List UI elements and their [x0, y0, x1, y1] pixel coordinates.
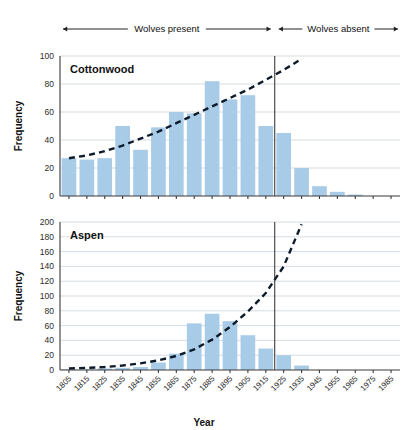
bar-cottonwood-1945: [312, 186, 327, 196]
y-tick-label-cottonwood-20: 20: [45, 163, 55, 173]
bar-aspen-1855: [151, 363, 166, 370]
y-axis-title-aspen: Frequency: [13, 270, 24, 321]
y-tick-label-aspen-160: 160: [40, 247, 54, 257]
panel-title-aspen: Aspen: [70, 229, 104, 241]
bar-cottonwood-1845: [133, 150, 148, 196]
bar-cottonwood-1855: [151, 127, 166, 196]
x-tick-label-1895: 1895: [215, 374, 234, 393]
bar-cottonwood-1875: [187, 113, 202, 196]
x-tick-label-1815: 1815: [72, 374, 91, 393]
y-tick-label-aspen-60: 60: [45, 321, 55, 331]
bar-cottonwood-1895: [223, 99, 238, 196]
bar-cottonwood-1805: [62, 158, 77, 196]
panel-title-cottonwood: Cottonwood: [70, 63, 134, 75]
x-tick-label-1965: 1965: [341, 374, 360, 393]
wolves-absent-label: Wolves absent: [307, 23, 369, 34]
bar-cottonwood-1935: [294, 168, 309, 196]
wolves-present-arrowhead-left: [63, 26, 67, 31]
x-tick-label-1865: 1865: [162, 374, 181, 393]
y-tick-label-aspen-200: 200: [40, 217, 54, 227]
x-tick-label-1845: 1845: [126, 374, 145, 393]
wolves-absent-arrowhead-left: [279, 26, 283, 31]
bar-cottonwood-1815: [80, 160, 95, 196]
y-tick-label-cottonwood-0: 0: [49, 191, 54, 201]
y-tick-label-aspen-140: 140: [40, 261, 54, 271]
bar-aspen-1925: [276, 355, 291, 370]
panel-cottonwood: 020406080100CottonwoodFrequency: [13, 51, 400, 201]
bar-aspen-1885: [205, 314, 220, 370]
x-tick-label-1955: 1955: [323, 374, 342, 393]
y-tick-label-aspen-0: 0: [49, 365, 54, 375]
x-tick-label-1825: 1825: [90, 374, 109, 393]
bar-aspen-1915: [258, 349, 273, 370]
x-tick-label-1945: 1945: [305, 374, 324, 393]
x-tick-label-1805: 1805: [54, 374, 73, 393]
x-tick-label-1975: 1975: [359, 374, 378, 393]
bar-aspen-1905: [241, 335, 256, 370]
x-tick-label-1935: 1935: [287, 374, 306, 393]
y-tick-label-cottonwood-100: 100: [40, 51, 54, 61]
two-panel-bar-chart: Wolves presentWolves absent 020406080100…: [0, 0, 408, 430]
y-tick-label-aspen-120: 120: [40, 276, 54, 286]
figure-container: Wolves presentWolves absent 020406080100…: [0, 0, 408, 430]
y-tick-label-cottonwood-80: 80: [45, 79, 55, 89]
bar-cottonwood-1955: [330, 192, 345, 196]
bar-cottonwood-1915: [258, 126, 273, 196]
bar-cottonwood-1885: [205, 81, 220, 196]
y-tick-label-cottonwood-40: 40: [45, 135, 55, 145]
y-tick-label-cottonwood-60: 60: [45, 107, 55, 117]
x-tick-label-1905: 1905: [233, 374, 252, 393]
bar-cottonwood-1825: [97, 158, 112, 196]
y-tick-label-aspen-20: 20: [45, 350, 55, 360]
wolves-period-annotation: Wolves presentWolves absent: [63, 23, 398, 34]
y-tick-label-aspen-100: 100: [40, 291, 54, 301]
bar-cottonwood-1925: [276, 133, 291, 196]
bar-cottonwood-1865: [169, 112, 184, 196]
x-axis-title: Year: [193, 417, 214, 428]
wolves-present-arrowhead-right: [267, 26, 271, 31]
bar-cottonwood-1835: [115, 126, 130, 196]
x-tick-label-1915: 1915: [251, 374, 270, 393]
wolves-absent-arrowhead-right: [394, 26, 398, 31]
x-tick-label-1855: 1855: [144, 374, 163, 393]
x-tick-label-1985: 1985: [377, 374, 396, 393]
wolves-present-label: Wolves present: [134, 23, 200, 34]
panel-aspen: 020406080100120140160180200AspenFrequenc…: [13, 217, 400, 393]
x-tick-label-1835: 1835: [108, 374, 127, 393]
y-tick-label-aspen-40: 40: [45, 335, 55, 345]
x-tick-label-1925: 1925: [269, 374, 288, 393]
y-axis-title-cottonwood: Frequency: [13, 100, 24, 151]
y-tick-label-aspen-80: 80: [45, 306, 55, 316]
y-tick-label-aspen-180: 180: [40, 232, 54, 242]
x-tick-label-1885: 1885: [198, 374, 217, 393]
bar-aspen-1935: [294, 366, 309, 370]
x-tick-label-1875: 1875: [180, 374, 199, 393]
bar-cottonwood-1905: [241, 95, 256, 196]
trend-line-aspen: [69, 224, 302, 368]
